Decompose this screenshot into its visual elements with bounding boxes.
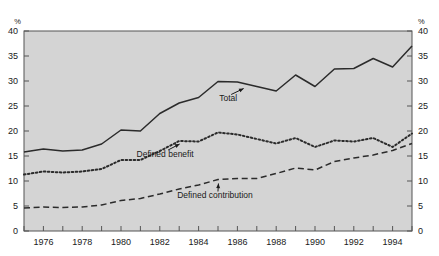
y-tick-label-left: 5 — [13, 201, 18, 211]
x-tick-label: 1984 — [189, 237, 209, 247]
x-tick-label: 1992 — [344, 237, 364, 247]
x-tick-label: 1986 — [227, 237, 247, 247]
y-tick-label-right: 40 — [418, 26, 428, 36]
y-axis-left-unit: % — [14, 17, 21, 26]
y-tick-label-right: 25 — [418, 101, 428, 111]
line-chart-svg: 0510152025303540 0510152025303540 % % 19… — [0, 0, 439, 256]
y-tick-label-left: 0 — [13, 226, 18, 236]
y-tick-label-left: 40 — [8, 26, 18, 36]
x-tick-label: 1980 — [111, 237, 131, 247]
x-tick-label: 1994 — [383, 237, 403, 247]
y-tick-label-left: 20 — [8, 126, 18, 136]
y-tick-label-left: 30 — [8, 76, 18, 86]
x-tick-label: 1976 — [33, 237, 53, 247]
y-axis-right-labels: 0510152025303540 — [418, 26, 428, 236]
x-tick-label: 1990 — [305, 237, 325, 247]
y-tick-label-left: 15 — [8, 151, 18, 161]
y-axis-right-unit: % — [418, 17, 425, 26]
y-tick-label-right: 20 — [418, 126, 428, 136]
plot-background — [24, 31, 412, 231]
y-axis-left-labels: 0510152025303540 — [8, 26, 18, 236]
y-tick-label-right: 0 — [418, 226, 423, 236]
chart-container: 0510152025303540 0510152025303540 % % 19… — [0, 0, 439, 256]
x-axis-ticks — [24, 226, 412, 231]
y-tick-label-right: 35 — [418, 51, 428, 61]
x-axis-tick-labels: 1976197819801982198419861988199019921994 — [33, 237, 402, 247]
x-tick-label: 1978 — [72, 237, 92, 247]
x-tick-label: 1988 — [266, 237, 286, 247]
annotation-label-total: Total — [219, 93, 237, 103]
y-tick-label-right: 30 — [418, 76, 428, 86]
y-tick-label-left: 10 — [8, 176, 18, 186]
y-tick-label-right: 15 — [418, 151, 428, 161]
y-tick-label-right: 10 — [418, 176, 428, 186]
y-tick-label-right: 5 — [418, 201, 423, 211]
annotation-label-defined-benefit: Defined benefit — [137, 149, 195, 159]
y-tick-label-left: 25 — [8, 101, 18, 111]
y-tick-label-left: 35 — [8, 51, 18, 61]
x-tick-label: 1982 — [150, 237, 170, 247]
annotation-label-defined-contribution: Defined contribution — [177, 190, 253, 200]
